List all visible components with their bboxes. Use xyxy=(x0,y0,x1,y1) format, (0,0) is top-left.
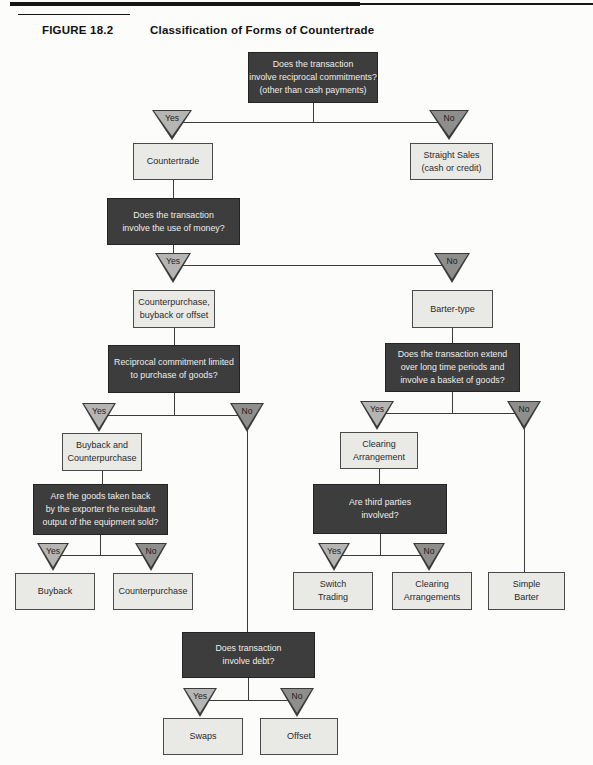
node-simple-barter: Simple Barter xyxy=(488,572,565,610)
edge-bc-q4 xyxy=(102,471,103,484)
edge-q3-down xyxy=(174,393,175,415)
no-label: No xyxy=(413,546,445,556)
yes-label: Yes xyxy=(82,406,116,416)
edge-countertrade-q2 xyxy=(173,180,174,198)
edge-q2-branch xyxy=(173,265,452,266)
node-barter-type: Barter-type xyxy=(412,290,493,328)
triangle-no-limited-goods: No xyxy=(230,403,264,432)
edge-cpbo-q3 xyxy=(174,328,175,345)
node-clearing-arrangement: Clearing Arrangement xyxy=(340,432,418,469)
edge-q4-down xyxy=(100,535,101,555)
question-goods-taken-back: Are the goods taken back by the exporter… xyxy=(33,484,168,535)
edge-q5-down xyxy=(452,392,453,413)
no-label: No xyxy=(135,546,167,556)
book-page: FIGURE 18.2 Classification of Forms of C… xyxy=(0,0,593,765)
edge-no5-simple-barter xyxy=(524,426,525,572)
triangle-no-third-parties: No xyxy=(413,543,445,571)
figure-label-rule xyxy=(18,14,130,15)
edge-no3-q7 xyxy=(247,428,248,632)
top-rule-thick xyxy=(10,2,360,6)
edge-q1-down xyxy=(313,103,314,122)
edge-q6-down xyxy=(380,534,381,555)
triangle-no-debt: No xyxy=(280,688,314,717)
node-countertrade: Countertrade xyxy=(133,143,213,180)
question-involve-debt: Does transaction involve debt? xyxy=(182,632,315,678)
no-label: No xyxy=(230,406,264,416)
node-buyback: Buyback xyxy=(15,573,95,610)
triangle-no-goods-taken-back: No xyxy=(135,543,167,571)
triangle-yes-money: Yes xyxy=(155,253,191,283)
yes-label: Yes xyxy=(152,113,192,123)
node-buyback-and-counterpurchase: Buyback and Counterpurchase xyxy=(62,433,142,471)
figure-title: Classification of Forms of Countertrade xyxy=(150,24,374,36)
edge-q5-branch xyxy=(377,413,524,414)
edge-q3-branch xyxy=(99,415,247,416)
triangle-no-reciprocal: No xyxy=(429,110,469,140)
no-label: No xyxy=(429,113,469,123)
no-label: No xyxy=(280,691,314,701)
edge-barter-q5 xyxy=(452,328,453,343)
question-limited-to-goods: Reciprocal commitment limited to purchas… xyxy=(108,345,240,393)
node-counterpurchase-buyback-offset: Counterpurchase, buyback or offset xyxy=(133,290,215,328)
triangle-no-money: No xyxy=(434,253,470,283)
question-long-time-periods: Does the transaction extend over long ti… xyxy=(385,343,520,392)
question-third-parties: Are third parties involved? xyxy=(313,484,447,534)
node-switch-trading: Switch Trading xyxy=(293,572,373,610)
question-reciprocal-commitments: Does the transaction involve reciprocal … xyxy=(248,52,378,103)
triangle-yes-reciprocal: Yes xyxy=(152,110,192,140)
yes-label: Yes xyxy=(318,546,350,556)
node-swaps: Swaps xyxy=(163,718,243,755)
triangle-yes-long-periods: Yes xyxy=(360,401,394,430)
yes-label: Yes xyxy=(183,691,217,701)
triangle-yes-limited-goods: Yes xyxy=(82,403,116,432)
edge-q1-branch xyxy=(172,122,449,123)
yes-label: Yes xyxy=(155,256,191,266)
question-use-of-money: Does the transaction involve the use of … xyxy=(107,198,240,245)
edge-ca-q6 xyxy=(379,469,380,484)
triangle-yes-third-parties: Yes xyxy=(318,543,350,571)
figure-number: FIGURE 18.2 xyxy=(42,24,113,36)
edge-q7-down xyxy=(248,678,249,700)
node-clearing-arrangements: Clearing Arrangements xyxy=(392,572,472,610)
triangle-yes-goods-taken-back: Yes xyxy=(37,543,69,571)
node-offset: Offset xyxy=(260,718,338,755)
node-straight-sales: Straight Sales (cash or credit) xyxy=(410,143,493,180)
no-label: No xyxy=(507,404,541,414)
yes-label: Yes xyxy=(360,404,394,414)
top-rule-thin xyxy=(358,3,593,5)
triangle-yes-debt: Yes xyxy=(183,688,217,717)
yes-label: Yes xyxy=(37,546,69,556)
node-counterpurchase: Counterpurchase xyxy=(113,573,193,610)
triangle-no-long-periods: No xyxy=(507,401,541,430)
no-label: No xyxy=(434,256,470,266)
